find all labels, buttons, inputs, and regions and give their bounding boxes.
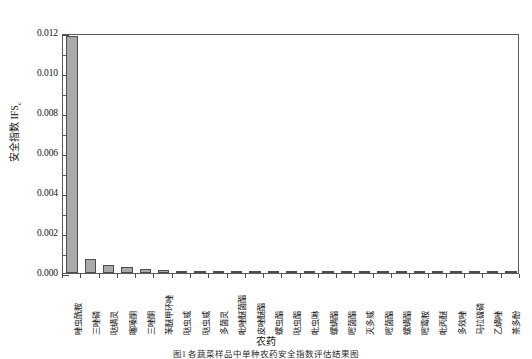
x-axis-tick-label: 茶多酚 <box>513 311 522 335</box>
x-axis-tick <box>336 274 337 278</box>
bar <box>194 271 205 273</box>
x-axis-tick-label: 嘧菌酯 <box>349 311 358 335</box>
y-axis-tick-label: 0.008 <box>37 109 58 119</box>
x-axis-tick <box>227 274 228 278</box>
x-axis-tick <box>172 274 173 278</box>
y-axis-title-text: 安全指数 IFS <box>9 105 20 162</box>
bar <box>268 271 279 273</box>
y-axis-tick-label: 0.000 <box>37 269 58 279</box>
x-axis-title: 农药 <box>0 336 532 347</box>
x-axis-tick <box>409 274 410 278</box>
x-axis-tick <box>482 274 483 278</box>
bar <box>158 270 169 273</box>
bar <box>66 36 77 273</box>
figure-caption: 图1 各蔬菜样品中单种农药安全指数评估结果图 <box>0 349 532 359</box>
bar <box>341 271 352 273</box>
bar <box>304 271 315 273</box>
x-axis-tick <box>281 274 282 278</box>
x-axis-tick <box>300 274 301 278</box>
x-axis-tick-label: 苯醚甲环唑 <box>166 295 175 336</box>
x-axis-tick-label: 灭多威 <box>367 311 376 335</box>
y-axis-title-subscript: c <box>15 102 23 105</box>
bar <box>176 271 187 273</box>
x-axis-tick <box>153 274 154 278</box>
bar-series <box>63 35 518 273</box>
x-axis-tick-label: 嘧霉胺 <box>422 311 431 335</box>
bar <box>487 271 498 273</box>
x-axis-tick-label: 哒螨灵 <box>111 311 120 335</box>
x-axis-tick <box>80 274 81 278</box>
bar <box>213 271 224 273</box>
x-axis-tick-labels: 唑虫酰胺三唑磷哒螨灵噻嗪酮三唑酮苯醚甲环唑哒虫威哒虫威多菌灵吡唑醚菌酯皮唑醚酯螺… <box>62 279 519 337</box>
bar <box>85 259 96 273</box>
y-axis-tick-label: 0.010 <box>37 69 58 79</box>
x-axis-tick-label: 哒虫酯 <box>294 311 303 335</box>
x-axis-tick-label: 噻嗪酮 <box>130 311 139 335</box>
y-axis-tick-label: 0.002 <box>37 229 58 239</box>
x-axis-tick-label: 哒虫威 <box>203 311 212 335</box>
bar <box>505 271 516 273</box>
bar <box>359 271 370 273</box>
bar <box>432 271 443 273</box>
bar <box>103 265 114 273</box>
bar <box>414 271 425 273</box>
x-axis-tick <box>519 274 520 278</box>
x-axis-tick <box>501 274 502 278</box>
x-axis-tick <box>354 274 355 278</box>
y-axis-tick-label: 0.012 <box>37 29 58 39</box>
x-axis-tick-label: 螺螨酯 <box>331 311 340 335</box>
x-axis-tick <box>318 274 319 278</box>
bar <box>286 271 297 273</box>
x-axis-tick-label: 乙螨唑 <box>495 311 504 335</box>
y-axis-tick-label: 0.004 <box>37 189 58 199</box>
x-axis-tick-label: 三唑酮 <box>148 311 157 335</box>
bar <box>396 271 407 273</box>
x-axis-tick-label: 哒虫威 <box>184 311 193 335</box>
x-axis-tick-label: 嘧菌酯 <box>386 311 395 335</box>
x-axis-tick <box>190 274 191 278</box>
x-axis-tick-label: 皮唑醚酯 <box>258 303 267 335</box>
x-axis-tick <box>373 274 374 278</box>
x-axis-tick-label: 马拉硫磷 <box>477 303 486 335</box>
x-axis-tick <box>245 274 246 278</box>
bar <box>121 267 132 273</box>
bar <box>249 271 260 273</box>
x-axis-tick-label: 吡唑醚菌酯 <box>239 295 248 336</box>
x-axis-tick <box>428 274 429 278</box>
x-axis-tick-label: 唑虫酰胺 <box>75 303 84 335</box>
bar <box>469 271 480 273</box>
bar <box>322 271 333 273</box>
x-axis-tick <box>391 274 392 278</box>
x-axis-tick <box>464 274 465 278</box>
y-axis-tick-label: 0.006 <box>37 149 58 159</box>
x-axis-tick <box>99 274 100 278</box>
x-axis-tick <box>117 274 118 278</box>
x-axis-tick <box>62 274 63 278</box>
x-axis-tick-label: 三唑磷 <box>93 311 102 335</box>
x-axis-tick <box>208 274 209 278</box>
x-axis-tick <box>263 274 264 278</box>
bar <box>140 269 151 273</box>
x-axis-tick-label: 螺螨酯 <box>404 311 413 335</box>
x-axis-tick-label: 多菌灵 <box>221 311 230 335</box>
x-axis-tick <box>135 274 136 278</box>
x-axis-tick <box>446 274 447 278</box>
y-axis-title: 安全指数 IFSc <box>9 57 25 207</box>
bar <box>231 271 242 273</box>
x-axis-tick-label: 吡虫啉 <box>312 311 321 335</box>
x-axis-tick-label: 螺虫酯 <box>276 311 285 335</box>
x-axis-tick-label: 吡丙醚 <box>440 311 449 335</box>
bar <box>377 271 388 273</box>
plot-area <box>62 34 519 274</box>
x-axis-tick-label: 多效唑 <box>459 311 468 335</box>
bar <box>450 271 461 273</box>
